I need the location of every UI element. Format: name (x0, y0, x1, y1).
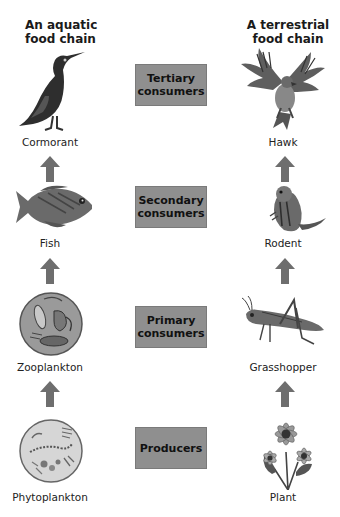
plant-image (252, 412, 324, 490)
level-box-primary-consumers: Primary consumers (135, 306, 207, 348)
aquatic-food-chain-title: An aquatic food chain (25, 18, 125, 46)
organism-label-plant: Plant (228, 491, 338, 503)
cormorant-image (15, 46, 95, 134)
fish-image (14, 183, 96, 233)
phytoplankton-image (18, 418, 84, 484)
organism-label-hawk: Hawk (228, 136, 338, 148)
level-box-producers: Producers (135, 427, 207, 469)
hawk-image (237, 42, 329, 134)
grasshopper-image (240, 296, 332, 352)
organism-label-cormorant: Cormorant (0, 136, 105, 148)
arrow-up-icon (275, 156, 295, 182)
level-box-tertiary-consumers: Tertiary consumers (135, 64, 207, 106)
organism-label-grasshopper: Grasshopper (228, 361, 338, 373)
arrow-up-icon (275, 381, 295, 407)
organism-label-zooplankton: Zooplankton (0, 361, 105, 373)
rodent-image (254, 182, 330, 236)
organism-label-rodent: Rodent (228, 237, 338, 249)
arrow-up-icon (40, 258, 60, 284)
arrow-up-icon (40, 156, 60, 182)
arrow-up-icon (275, 258, 295, 284)
level-box-secondary-consumers: Secondary consumers (135, 186, 207, 228)
organism-label-fish: Fish (0, 237, 105, 249)
zooplankton-image (18, 291, 84, 357)
organism-label-phytoplankton: Phytoplankton (0, 491, 105, 503)
arrow-up-icon (40, 381, 60, 407)
